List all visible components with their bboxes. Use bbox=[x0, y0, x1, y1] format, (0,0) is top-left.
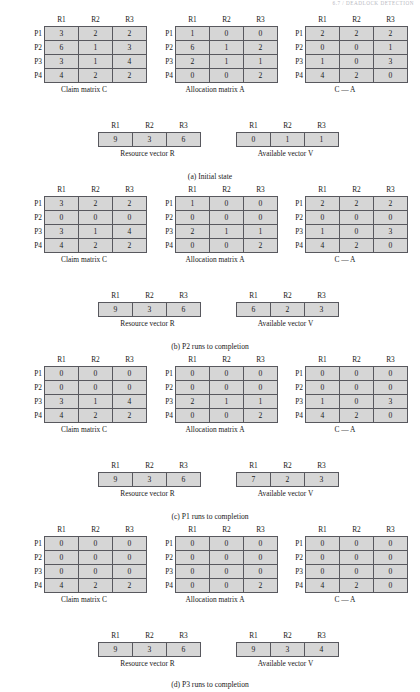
vector-cell: 1 bbox=[305, 133, 339, 147]
matrix-cell: 0 bbox=[374, 551, 408, 565]
matrix-cell: 0 bbox=[210, 27, 244, 41]
matrix-cell: 1 bbox=[244, 395, 278, 409]
matrix-cell: 0 bbox=[340, 55, 374, 69]
column-header-r3: R3 bbox=[113, 184, 147, 197]
resource-vector-table: R1R2R3936 bbox=[98, 120, 201, 147]
column-header-r1: R1 bbox=[237, 460, 271, 473]
allocation-matrix-table: R1R2R3P1100P2000P3211P4002 bbox=[158, 184, 278, 253]
row-header-p3: P3 bbox=[27, 395, 45, 409]
matrix-cell: 0 bbox=[79, 381, 113, 395]
claim-matrix-table: R1R2R3P1000P2000P3000P4422 bbox=[27, 524, 147, 593]
claim-matrix-table: R1R2R3P1322P2000P3314P4422 bbox=[27, 184, 147, 253]
matrix-cell: 0 bbox=[374, 211, 408, 225]
row-header-p4: P4 bbox=[27, 409, 45, 423]
vector-cell: 0 bbox=[237, 133, 271, 147]
vector-column-header-row: R1R2R3 bbox=[237, 630, 339, 643]
row-header-p3: P3 bbox=[158, 395, 176, 409]
matrix-cell: 0 bbox=[340, 551, 374, 565]
matrix-cell: 2 bbox=[113, 27, 147, 41]
claim-matrix-block: R1R2R3P1000P2000P3000P4422Claim matrix C bbox=[27, 524, 147, 605]
matrix-cell: 3 bbox=[45, 27, 79, 41]
matrix-row: P4002 bbox=[158, 239, 278, 253]
matrix-cell: 3 bbox=[45, 197, 79, 211]
matrix-cell: 0 bbox=[244, 367, 278, 381]
column-header-r2: R2 bbox=[271, 460, 305, 473]
matrix-row: P2000 bbox=[288, 381, 408, 395]
matrix-cell: 4 bbox=[113, 395, 147, 409]
column-header-r1: R1 bbox=[45, 14, 79, 27]
matrix-cell: 0 bbox=[45, 551, 79, 565]
available-vector-table: R1R2R3934 bbox=[236, 630, 339, 657]
matrix-cell: 0 bbox=[176, 239, 210, 253]
vector-row-group: R1R2R3936Resource vector RR1R2R3934Avail… bbox=[0, 622, 420, 664]
matrix-cell: 2 bbox=[306, 27, 340, 41]
matrix-cell: 1 bbox=[210, 41, 244, 55]
matrix-row: P3211 bbox=[158, 395, 278, 409]
row-header-p2: P2 bbox=[288, 551, 306, 565]
matrix-cell: 0 bbox=[244, 27, 278, 41]
matrix-cell: 4 bbox=[113, 225, 147, 239]
column-header-r1: R1 bbox=[306, 354, 340, 367]
matrix-row: P4002 bbox=[158, 409, 278, 423]
matrix-row: P3103 bbox=[288, 55, 408, 69]
matrix-cell: 2 bbox=[306, 197, 340, 211]
matrix-row-group: R1R2R3P1322P2613P3314P4422Claim matrix C… bbox=[0, 14, 420, 112]
claim-matrix-block: R1R2R3P1000P2000P3314P4422Claim matrix C bbox=[27, 354, 147, 435]
row-header-p1: P1 bbox=[27, 197, 45, 211]
matrix-cell: 0 bbox=[113, 367, 147, 381]
matrix-row: P4420 bbox=[288, 579, 408, 593]
vector-cell: 7 bbox=[237, 473, 271, 487]
matrix-row: P2000 bbox=[288, 551, 408, 565]
available-vector-table: R1R2R3011 bbox=[236, 120, 339, 147]
matrix-cell: 0 bbox=[176, 381, 210, 395]
vector-column-header-row: R1R2R3 bbox=[237, 460, 339, 473]
matrix-row: P3103 bbox=[288, 225, 408, 239]
matrix-cell: 6 bbox=[45, 41, 79, 55]
column-header-r3: R3 bbox=[244, 524, 278, 537]
matrix-row: P4002 bbox=[158, 579, 278, 593]
column-header-r1: R1 bbox=[176, 354, 210, 367]
matrix-cell: 2 bbox=[176, 225, 210, 239]
claim-matrix-block: R1R2R3P1322P2613P3314P4422Claim matrix C bbox=[27, 14, 147, 95]
matrix-column-header-row: R1R2R3 bbox=[288, 184, 408, 197]
row-header-p2: P2 bbox=[27, 551, 45, 565]
available-vector-caption: Available vector V bbox=[236, 319, 335, 329]
row-header-p2: P2 bbox=[158, 41, 176, 55]
matrix-cell: 2 bbox=[176, 395, 210, 409]
resource-vector-caption: Resource vector R bbox=[98, 149, 197, 159]
row-header-p1: P1 bbox=[27, 537, 45, 551]
matrix-cell: 4 bbox=[306, 409, 340, 423]
column-header-r2: R2 bbox=[79, 14, 113, 27]
matrix-cell: 0 bbox=[244, 537, 278, 551]
column-header-r2: R2 bbox=[79, 354, 113, 367]
matrix-cell: 0 bbox=[374, 579, 408, 593]
column-header-r1: R1 bbox=[45, 524, 79, 537]
matrix-cell: 0 bbox=[340, 367, 374, 381]
matrix-cell: 0 bbox=[113, 381, 147, 395]
matrix-cell: 2 bbox=[244, 579, 278, 593]
row-header-p1: P1 bbox=[27, 367, 45, 381]
matrix-row: P2000 bbox=[288, 211, 408, 225]
matrix-cell: 1 bbox=[306, 395, 340, 409]
column-header-r3: R3 bbox=[374, 14, 408, 27]
matrix-cell: 0 bbox=[306, 381, 340, 395]
matrix-cell: 2 bbox=[79, 239, 113, 253]
row-header-p2: P2 bbox=[288, 211, 306, 225]
column-header-r2: R2 bbox=[133, 290, 167, 303]
row-header-p3: P3 bbox=[27, 565, 45, 579]
matrix-cell: 1 bbox=[210, 225, 244, 239]
available-vector-block: R1R2R3934Available vector V bbox=[236, 630, 339, 669]
panel-caption: (b) P2 runs to completion bbox=[0, 342, 420, 352]
matrix-cell: 0 bbox=[210, 197, 244, 211]
matrix-cell: 1 bbox=[176, 197, 210, 211]
column-header-r2: R2 bbox=[210, 14, 244, 27]
matrix-column-header-row: R1R2R3 bbox=[158, 524, 278, 537]
column-header-r3: R3 bbox=[305, 290, 339, 303]
vector-cell: 6 bbox=[237, 303, 271, 317]
matrix-cell: 0 bbox=[374, 69, 408, 83]
vector-cell: 2 bbox=[271, 473, 305, 487]
matrix-cell: 1 bbox=[176, 27, 210, 41]
row-header-p4: P4 bbox=[288, 239, 306, 253]
matrix-cell: 0 bbox=[340, 225, 374, 239]
matrix-row: P1100 bbox=[158, 27, 278, 41]
